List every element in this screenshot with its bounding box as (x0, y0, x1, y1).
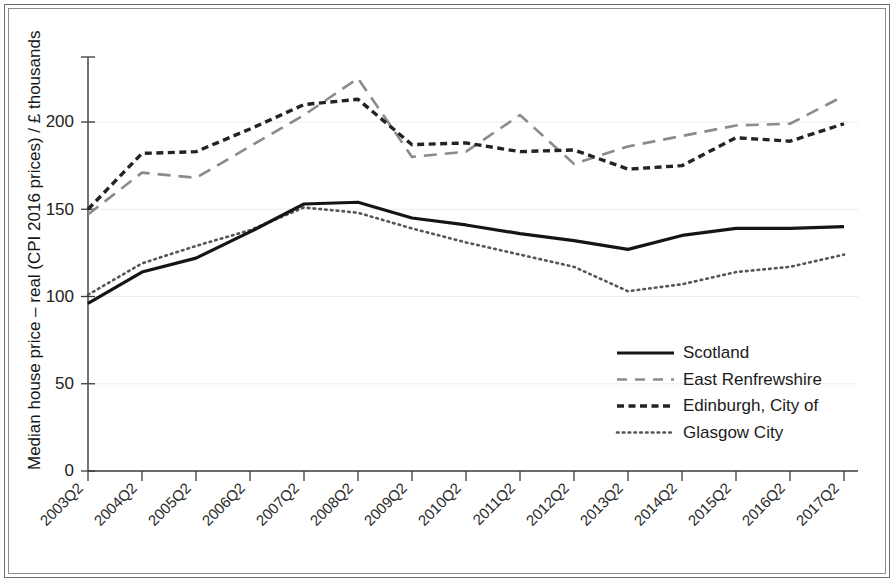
series-line-glasgow-city (88, 208, 844, 295)
legend-label-glasgow-city: Glasgow City (683, 423, 784, 442)
y-axis-tick-label: 200 (46, 112, 74, 131)
legend-label-scotland: Scotland (683, 343, 749, 362)
x-axis-tick-label: 2013Q2 (576, 479, 626, 529)
line-chart-svg: 050100150200 2003Q22004Q22005Q22006Q2200… (0, 0, 895, 583)
x-axis-tick-label: 2008Q2 (306, 479, 356, 529)
series-paths-group (88, 78, 844, 303)
chart-legend: ScotlandEast RenfrewshireEdinburgh, City… (617, 343, 822, 442)
x-axis-tick-label: 2012Q2 (522, 479, 572, 529)
x-axis-tick-label: 2006Q2 (198, 479, 248, 529)
x-axis-tick-label: 2010Q2 (414, 479, 464, 529)
x-axis-tick-label: 2014Q2 (630, 479, 680, 529)
x-axis-tick-label: 2009Q2 (360, 479, 410, 529)
figure-container: 050100150200 2003Q22004Q22005Q22006Q2200… (0, 0, 895, 583)
legend-label-edinburgh-city-of: Edinburgh, City of (683, 396, 818, 415)
y-axis-tick-label: 0 (65, 461, 74, 480)
x-axis-tick-label: 2016Q2 (738, 479, 788, 529)
x-axis-tick-label: 2004Q2 (90, 479, 140, 529)
x-axis-tick-label: 2007Q2 (252, 479, 302, 529)
x-axis-tick-label: 2015Q2 (684, 479, 734, 529)
y-axis-tick-label: 100 (46, 287, 74, 306)
chart-plot-area: 050100150200 2003Q22004Q22005Q22006Q2200… (0, 0, 895, 583)
x-axis-ticks-group: 2003Q22004Q22005Q22006Q22007Q22008Q22009… (36, 471, 844, 529)
y-axis-title: Median house price – real (CPI 2016 pric… (25, 31, 44, 470)
x-axis-tick-label: 2003Q2 (36, 479, 86, 529)
series-line-east-renfrewshire (88, 78, 844, 214)
x-axis-tick-label: 2017Q2 (792, 479, 842, 529)
y-axis-tick-label: 150 (46, 200, 74, 219)
y-axis-tick-label: 50 (55, 374, 74, 393)
legend-label-east-renfrewshire: East Renfrewshire (683, 370, 822, 389)
series-line-edinburgh-city-of (88, 99, 844, 209)
x-axis-tick-label: 2005Q2 (144, 479, 194, 529)
x-axis-tick-label: 2011Q2 (469, 479, 518, 528)
series-line-scotland (88, 202, 844, 303)
